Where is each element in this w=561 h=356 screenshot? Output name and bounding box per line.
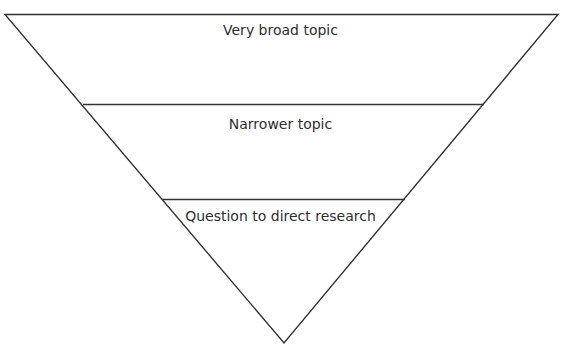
inverted-pyramid-diagram: Very broad topic Narrower topic Question… <box>0 0 561 356</box>
level-label-narrower-topic: Narrower topic <box>0 115 561 133</box>
triangle-outline <box>5 15 558 344</box>
pyramid-outline <box>0 0 561 356</box>
level-label-broad-topic: Very broad topic <box>0 21 561 39</box>
level-label-research-question: Question to direct research <box>0 207 561 225</box>
